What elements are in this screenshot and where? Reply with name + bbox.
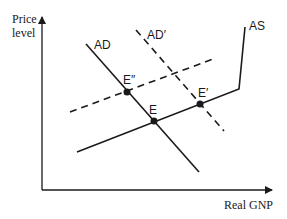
ad-label: AD — [94, 38, 111, 52]
point-e-prime-label: E′ — [198, 86, 209, 100]
point-e-double-prime-label: E″ — [123, 73, 136, 87]
point-e-double-prime — [124, 89, 131, 96]
ad-as-diagram: Price level Real GNP AS AD AD′ E E′ E″ — [0, 0, 287, 219]
y-axis-label-line1: Price — [12, 12, 37, 26]
point-e — [151, 118, 158, 125]
point-e-prime — [197, 101, 204, 108]
point-e-label: E — [149, 103, 157, 117]
as-label: AS — [249, 19, 265, 33]
x-axis-label: Real GNP — [224, 198, 273, 212]
ad-curve — [86, 44, 199, 172]
y-axis-label-line2: level — [12, 26, 36, 40]
as-shifted-curve — [70, 58, 216, 112]
ad-prime-label: AD′ — [147, 28, 167, 42]
